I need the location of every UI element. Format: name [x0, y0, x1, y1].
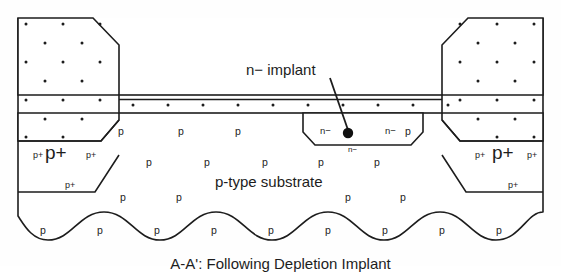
substrate-p-mark: p — [235, 126, 241, 137]
field-oxide-dot — [459, 99, 462, 102]
left-oxide-upper-outline — [18, 18, 119, 95]
nminus-mark: n− — [385, 126, 396, 136]
field-oxide-dot — [99, 23, 102, 26]
oxide-dot — [167, 104, 170, 107]
left-field-oxide-block — [18, 18, 119, 141]
substrate-p-mark: p — [439, 225, 445, 236]
substrate-p-mark: p — [118, 126, 124, 137]
substrate-p-mark: p — [146, 157, 152, 168]
oxide-dot — [377, 104, 380, 107]
field-oxide-dot — [25, 23, 28, 26]
oxide-dot — [412, 104, 415, 107]
right-pplus-sup-mark: p+ — [527, 151, 537, 160]
field-oxide-dot — [459, 23, 462, 26]
substrate-p-mark: p — [318, 157, 324, 168]
left-pplus-sup-mark: p+ — [33, 151, 43, 160]
field-oxide-dot — [44, 118, 47, 121]
substrate-p-mark: p — [176, 192, 182, 203]
substrate-p-mark: p — [154, 225, 160, 236]
right-pplus-sup-mark: p+ — [508, 181, 518, 190]
right-field-oxide-block — [442, 18, 543, 141]
substrate-p-mark: p — [204, 157, 210, 168]
right-pplus-main-label: p+ — [492, 143, 514, 162]
left-pplus-main-label: p+ — [45, 143, 67, 162]
field-oxide-dot — [25, 99, 28, 102]
substrate-p-mark: p — [40, 225, 46, 236]
field-oxide-dot — [533, 23, 536, 26]
field-oxide-dot — [533, 136, 536, 139]
substrate-p-mark: p — [325, 225, 331, 236]
field-oxide-dot — [496, 61, 499, 64]
substrate-p-mark: p — [496, 225, 502, 236]
field-oxide-dot — [81, 42, 84, 45]
field-oxide-dot — [99, 61, 102, 64]
right-pplus-sup-mark: p+ — [475, 151, 485, 160]
field-oxide-dot — [25, 136, 28, 139]
left-pplus-sup-mark: p+ — [86, 151, 96, 160]
field-oxide-dot — [99, 99, 102, 102]
substrate-p-mark: p — [345, 192, 351, 203]
field-oxide-dot — [81, 118, 84, 121]
substrate-p-mark: p — [178, 126, 184, 137]
substrate-p-mark: p — [97, 225, 103, 236]
field-oxide-dot — [62, 61, 65, 64]
field-oxide-dot — [533, 99, 536, 102]
field-oxide-dot — [514, 42, 517, 45]
field-oxide-dot — [533, 61, 536, 64]
substrate-p-mark: p — [120, 192, 126, 203]
field-oxide-dot — [81, 80, 84, 83]
p-type-substrate-label: p-type substrate — [215, 174, 323, 189]
substrate-p-mark: p — [382, 225, 388, 236]
nminus-mark: n− — [320, 126, 331, 136]
field-oxide-dot — [496, 23, 499, 26]
field-oxide-dot — [459, 61, 462, 64]
field-oxide-dot — [62, 99, 65, 102]
field-oxide-dot — [477, 42, 480, 45]
nminus-mark: n− — [348, 146, 357, 154]
substrate-p-mark: p — [374, 157, 380, 168]
oxide-dot — [272, 104, 275, 107]
oxide-dot — [132, 104, 135, 107]
oxide-dot — [307, 104, 310, 107]
oxide-dot — [342, 104, 345, 107]
figure-caption: A-A': Following Depletion Implant — [0, 255, 561, 272]
field-oxide-dot — [514, 80, 517, 83]
field-oxide-dot — [25, 61, 28, 64]
field-oxide-dot — [44, 42, 47, 45]
substrate-p-mark: p — [400, 192, 406, 203]
field-oxide-dot — [44, 80, 47, 83]
oxide-dot — [202, 104, 205, 107]
field-oxide-dot — [514, 118, 517, 121]
leader-dot-icon — [343, 128, 353, 138]
field-oxide-dot — [477, 118, 480, 121]
oxide-dot — [447, 104, 450, 107]
oxide-dot — [237, 104, 240, 107]
field-oxide-dot — [62, 23, 65, 26]
substrate-p-mark: p — [211, 225, 217, 236]
field-oxide-dot — [496, 136, 499, 139]
right-oxide-upper-outline — [442, 18, 543, 95]
field-oxide-dot — [496, 99, 499, 102]
left-pplus-sup-mark: p+ — [65, 181, 75, 190]
substrate-p-mark: p — [268, 225, 274, 236]
substrate-p-mark: p — [262, 157, 268, 168]
field-oxide-dot — [477, 80, 480, 83]
substrate-p-mark: p — [405, 126, 411, 137]
field-oxide-dot — [62, 136, 65, 139]
nminus-implant-callout-label: n− implant — [246, 62, 316, 77]
